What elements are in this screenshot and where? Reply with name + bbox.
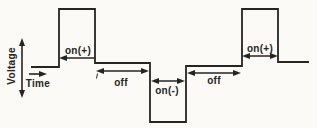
pulse-waveform-diagram: on(+) off on(-) off on(+) Time Voltage <box>0 0 317 128</box>
arrowhead-left-icon <box>187 70 195 76</box>
arrowhead-right-icon <box>39 71 47 77</box>
off-2-label: off <box>207 75 221 86</box>
on-negative-label: on(-) <box>155 85 179 96</box>
figure-canvas: on(+) off on(-) off on(+) Time Voltage <box>0 0 317 128</box>
off-1-label: off <box>114 77 128 88</box>
arrowhead-right-icon <box>141 68 149 74</box>
on-negative-arrow <box>151 78 185 84</box>
tick-mark <box>97 74 98 79</box>
arrowhead-left-icon <box>151 78 159 84</box>
arrowhead-right-icon <box>233 70 241 76</box>
voltage-axis-arrow <box>19 38 25 98</box>
ink-fill-layer: on(+) off on(-) off on(+) Time Voltage <box>6 9 309 122</box>
arrowhead-left-icon <box>96 68 104 74</box>
ink-layer: on(+) off on(-) off on(+) Time Voltage <box>6 9 309 122</box>
arrowhead-right-icon <box>177 78 185 84</box>
arrowhead-down-icon <box>19 90 25 98</box>
on-positive-2-label: on(+) <box>247 43 273 54</box>
time-axis-label: Time <box>26 78 50 89</box>
arrowhead-up-icon <box>19 38 25 46</box>
time-axis-arrow <box>29 71 47 77</box>
waveform-trace <box>31 9 309 122</box>
voltage-axis-label: Voltage <box>6 47 17 85</box>
on-positive-1-label: on(+) <box>65 45 91 56</box>
